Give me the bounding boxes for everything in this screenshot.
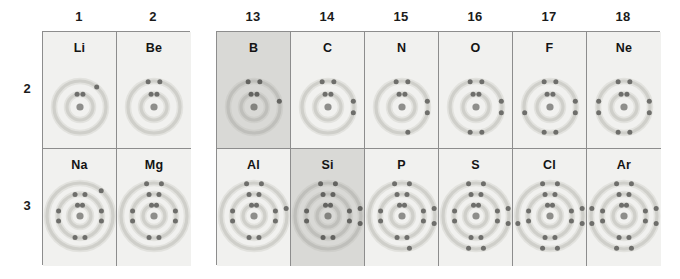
element-symbol-c: C bbox=[291, 41, 364, 55]
column-header-group-15: 15 bbox=[364, 8, 438, 26]
period-label-2: 2 bbox=[18, 81, 36, 96]
element-cell-li[interactable]: Li bbox=[43, 32, 117, 149]
element-symbol-cl: Cl bbox=[513, 158, 586, 172]
element-cell-o[interactable]: O bbox=[439, 32, 513, 149]
group-block-13-18: BCNOFNeAlSiPSClAr bbox=[216, 31, 660, 265]
element-symbol-ar: Ar bbox=[587, 158, 661, 172]
element-symbol-li: Li bbox=[43, 41, 116, 55]
bohr-model-o bbox=[439, 64, 513, 149]
bohr-model-c bbox=[291, 64, 365, 149]
element-cell-be[interactable]: Be bbox=[117, 32, 191, 149]
element-cell-b[interactable]: B bbox=[217, 32, 291, 149]
bohr-model-al bbox=[217, 173, 291, 259]
bohr-model-cl bbox=[513, 173, 587, 259]
group-block-1-2: LiBeNaMg bbox=[42, 31, 190, 265]
element-symbol-n: N bbox=[365, 41, 438, 55]
bohr-model-p bbox=[365, 173, 439, 259]
element-cell-cl[interactable]: Cl bbox=[513, 149, 587, 266]
element-symbol-ne: Ne bbox=[587, 41, 661, 55]
bohr-model-n bbox=[365, 64, 439, 149]
element-symbol-s: S bbox=[439, 158, 512, 172]
bohr-model-s bbox=[439, 173, 513, 259]
element-cell-f[interactable]: F bbox=[513, 32, 587, 149]
bohr-model-f bbox=[513, 64, 587, 149]
column-header-group-13: 13 bbox=[216, 8, 290, 26]
periodic-table-figure: 12131415161718 23 LiBeNaMg BCNOFNeAlSiPS… bbox=[0, 0, 680, 279]
element-symbol-na: Na bbox=[43, 158, 116, 172]
bohr-model-be bbox=[117, 64, 191, 149]
element-symbol-mg: Mg bbox=[117, 158, 191, 172]
element-cell-al[interactable]: Al bbox=[217, 149, 291, 266]
element-symbol-al: Al bbox=[217, 158, 290, 172]
element-cell-s[interactable]: S bbox=[439, 149, 513, 266]
bohr-model-ne bbox=[587, 64, 661, 149]
bohr-model-si bbox=[291, 173, 365, 259]
column-header-group-14: 14 bbox=[290, 8, 364, 26]
element-symbol-p: P bbox=[365, 158, 438, 172]
bohr-model-b bbox=[217, 64, 291, 149]
column-header-group-2: 2 bbox=[116, 8, 190, 26]
element-cell-si[interactable]: Si bbox=[291, 149, 365, 266]
element-symbol-b: B bbox=[217, 41, 290, 55]
column-header-group-18: 18 bbox=[586, 8, 660, 26]
column-header-group-16: 16 bbox=[438, 8, 512, 26]
element-cell-na[interactable]: Na bbox=[43, 149, 117, 266]
element-symbol-o: O bbox=[439, 41, 512, 55]
element-symbol-si: Si bbox=[291, 158, 364, 172]
bohr-model-li bbox=[43, 64, 117, 149]
element-cell-mg[interactable]: Mg bbox=[117, 149, 191, 266]
bohr-model-mg bbox=[117, 173, 191, 259]
bohr-model-ar bbox=[587, 173, 661, 259]
element-cell-ne[interactable]: Ne bbox=[587, 32, 661, 149]
element-symbol-be: Be bbox=[117, 41, 191, 55]
element-symbol-f: F bbox=[513, 41, 586, 55]
element-cell-c[interactable]: C bbox=[291, 32, 365, 149]
period-label-3: 3 bbox=[18, 198, 36, 213]
column-header-group-1: 1 bbox=[42, 8, 116, 26]
element-cell-ar[interactable]: Ar bbox=[587, 149, 661, 266]
bohr-model-na bbox=[43, 173, 117, 259]
column-header-group-17: 17 bbox=[512, 8, 586, 26]
element-cell-p[interactable]: P bbox=[365, 149, 439, 266]
element-cell-n[interactable]: N bbox=[365, 32, 439, 149]
